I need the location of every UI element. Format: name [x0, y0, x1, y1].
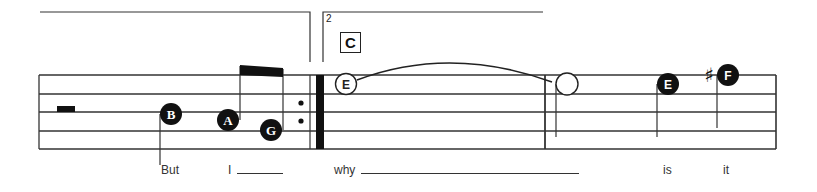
note-G: G	[260, 119, 282, 141]
note-tied-open	[556, 73, 578, 95]
svg-text:F: F	[724, 69, 731, 83]
svg-text:E: E	[664, 78, 672, 92]
note-stems	[160, 66, 717, 165]
note-F: F	[717, 64, 739, 86]
lyric-is: is	[663, 163, 672, 177]
lyric-but: But	[161, 163, 179, 177]
melisma-line	[237, 163, 283, 174]
note-B: B	[160, 103, 182, 125]
half-rest-icon	[57, 106, 75, 112]
svg-text:B: B	[167, 107, 176, 122]
rehearsal-mark: C	[340, 32, 361, 53]
note-E-open: E	[336, 74, 357, 95]
second-ending-number: 2	[326, 13, 332, 24]
eighth-beam	[240, 65, 283, 77]
lyric-it: it	[723, 163, 729, 177]
svg-text:♯: ♯	[704, 63, 714, 87]
lyric-why: why	[334, 163, 579, 177]
svg-text:A: A	[223, 113, 233, 128]
sharp-icon: ♯	[704, 63, 714, 87]
tie-arc	[357, 63, 552, 82]
svg-text:E: E	[342, 78, 350, 92]
melisma-line	[361, 163, 579, 174]
note-A: A	[217, 109, 239, 131]
svg-text:G: G	[266, 123, 276, 138]
note-E: E	[657, 73, 679, 95]
lyric-i: I	[228, 163, 283, 177]
first-ending-bracket	[40, 12, 310, 62]
